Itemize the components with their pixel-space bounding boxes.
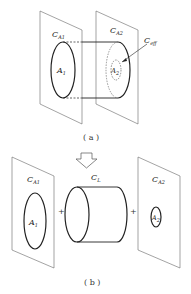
panel-a: CA1 CA2 Ceff A1 A2 ( a ) <box>40 11 158 142</box>
plate-right-a <box>96 11 138 124</box>
caption-a: ( a ) <box>83 133 99 142</box>
label-c-a2-a: CA2 <box>110 26 123 36</box>
label-c-a2-b: CA2 <box>152 175 165 185</box>
plus-sign-1: + <box>58 207 65 216</box>
label-c-a1-a: CA1 <box>52 30 65 40</box>
label-a1-a: A1 <box>56 66 66 76</box>
caption-b: ( b ) <box>84 278 100 287</box>
label-a1-b: A1 <box>28 218 38 228</box>
plus-sign-2: + <box>130 207 137 216</box>
capacitance-diagram: CA1 CA2 Ceff A1 A2 ( a ) CA1 A1 + CL + C… <box>0 0 191 294</box>
plate-left-b <box>12 157 54 268</box>
down-arrow-icon <box>76 153 97 168</box>
label-c-eff: Ceff <box>144 36 158 47</box>
label-a2-a: A2 <box>110 67 119 76</box>
label-c-a1-b: CA1 <box>27 175 40 185</box>
label-a2-b: A2 <box>151 214 160 223</box>
label-c-l: CL <box>91 173 101 183</box>
cylinder-c-l <box>65 187 127 242</box>
plate-right-b <box>138 157 180 268</box>
panel-b: CA1 A1 + CL + CA2 A2 ( b ) <box>12 157 180 287</box>
